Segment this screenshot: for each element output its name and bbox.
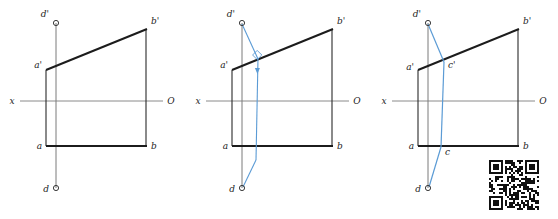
- label-c: c: [445, 147, 450, 157]
- label-b-prime: b': [337, 16, 345, 26]
- label-x: x: [381, 96, 386, 106]
- construction-vertical-projector: [256, 58, 258, 160]
- label-d-prime: d': [41, 9, 49, 19]
- label-b: b: [337, 141, 343, 151]
- down-arrow-icon: [255, 68, 260, 74]
- label-d: d: [229, 184, 235, 194]
- label-d-prime: d': [413, 9, 421, 19]
- label-x: x: [9, 96, 14, 106]
- label-d-prime: d': [227, 9, 235, 19]
- construction-to-d: [243, 160, 256, 187]
- label-a-prime: a': [406, 62, 414, 72]
- label-b: b: [151, 141, 157, 151]
- label-O: O: [167, 96, 175, 106]
- construction-c-to-d: [429, 147, 441, 187]
- segment-a-prime-b-prime: [46, 29, 147, 70]
- qr-code[interactable]: [489, 160, 539, 210]
- label-a: a: [409, 141, 414, 151]
- label-O: O: [539, 96, 547, 106]
- construction-c-prime-to-c: [441, 62, 444, 147]
- label-b-prime: b': [523, 16, 531, 26]
- label-a: a: [223, 141, 228, 151]
- label-b-prime: b': [151, 16, 159, 26]
- construction-d-prime-to-foot: [242, 24, 258, 59]
- label-c-prime: c': [448, 60, 456, 70]
- label-d: d: [415, 184, 421, 194]
- panel-given-line-and-point: x O d' d a' b' a b: [0, 0, 186, 219]
- panel-perpendicular-construction: x O d' d a' b' a b: [186, 0, 372, 219]
- label-O: O: [353, 96, 361, 106]
- construction-d-prime-to-c-prime: [428, 24, 444, 62]
- label-a-prime: a': [220, 60, 228, 70]
- label-x: x: [195, 96, 200, 106]
- label-d: d: [43, 184, 49, 194]
- figure-container: x O d' d a' b' a b: [0, 0, 558, 219]
- label-b: b: [523, 141, 529, 151]
- label-a-prime: a': [34, 60, 42, 70]
- label-a: a: [37, 141, 42, 151]
